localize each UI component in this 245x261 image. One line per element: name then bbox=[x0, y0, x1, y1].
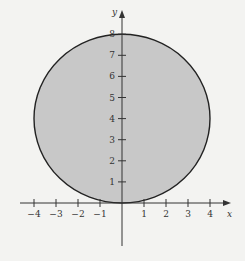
y-tick-label: 1 bbox=[109, 177, 115, 187]
x-tick-label: −2 bbox=[71, 209, 84, 219]
x-tick-label: 4 bbox=[207, 209, 213, 219]
x-axis-label: x bbox=[227, 209, 232, 219]
y-tick-label: 8 bbox=[109, 29, 115, 39]
y-axis-arrow-icon bbox=[119, 10, 125, 18]
x-axis-arrow-icon bbox=[223, 200, 231, 206]
x-tick-label: −4 bbox=[27, 209, 41, 219]
y-tick-label: 2 bbox=[109, 156, 115, 166]
x-tick-label: 1 bbox=[141, 209, 147, 219]
y-tick-label: 7 bbox=[109, 50, 115, 60]
x-tick-label: −3 bbox=[49, 209, 63, 219]
x-tick-label: 3 bbox=[185, 209, 191, 219]
y-tick-label: 4 bbox=[109, 114, 115, 124]
y-tick-label: 3 bbox=[109, 135, 115, 145]
y-tick-label: 5 bbox=[109, 93, 115, 103]
y-axis-label: y bbox=[111, 7, 118, 17]
y-tick-label: 6 bbox=[109, 71, 115, 81]
plot-area: −4−3−2−11234 12345678 x y bbox=[0, 0, 245, 261]
x-tick-label: −1 bbox=[93, 209, 106, 219]
x-tick-label: 2 bbox=[163, 209, 169, 219]
chart-figure: −4−3−2−11234 12345678 x y bbox=[0, 0, 245, 261]
